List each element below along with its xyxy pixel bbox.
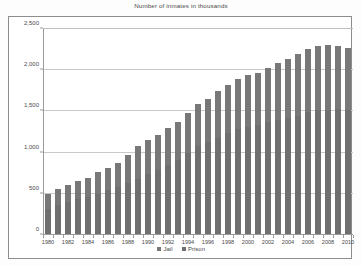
y-axis-tick-label: 500 — [29, 185, 39, 191]
x-axis-tick-label: 1982 — [62, 239, 74, 245]
bar-segment-prison — [85, 197, 91, 235]
x-tick-mark — [233, 235, 234, 238]
x-tick-mark — [43, 235, 44, 238]
bar-segment-prison — [135, 179, 141, 235]
bar-segment-jail — [305, 49, 311, 112]
x-axis-tick-label: 1988 — [122, 239, 134, 245]
bar-segment-jail — [125, 155, 131, 183]
bar-segment-prison — [75, 199, 81, 235]
bar-segment-jail — [95, 172, 101, 193]
x-axis-tick-label: 2010 — [342, 239, 354, 245]
x-tick-mark — [103, 235, 104, 238]
bar-2001 — [255, 73, 261, 235]
bar-2009 — [335, 46, 341, 235]
bar-segment-jail — [245, 75, 251, 126]
bar-segment-prison — [175, 160, 181, 235]
x-axis-tick-label: 2008 — [322, 239, 334, 245]
bar-segment-jail — [315, 46, 321, 110]
bar-1996 — [205, 99, 211, 235]
bar-segment-jail — [215, 91, 221, 138]
x-tick-mark — [333, 235, 334, 238]
chart-frame: 05001,0001,5002,0002,500 198019821984198… — [8, 16, 352, 259]
legend-swatch-icon — [157, 247, 161, 251]
bar-segment-prison — [125, 183, 131, 235]
bar-1986 — [105, 168, 111, 235]
bar-segment-prison — [195, 146, 201, 235]
bar-2006 — [305, 49, 311, 235]
legend-item-jail[interactable]: Jail — [157, 246, 173, 252]
x-tick-mark — [303, 235, 304, 238]
bar-2002 — [265, 68, 271, 235]
bar-segment-prison — [345, 110, 351, 235]
bar-segment-jail — [205, 99, 211, 142]
bar-segment-jail — [335, 46, 341, 109]
x-axis-tick-label: 1996 — [202, 239, 214, 245]
x-tick-mark — [93, 235, 94, 238]
x-axis-tick-label: 1986 — [102, 239, 114, 245]
x-tick-mark — [113, 235, 114, 238]
bar-1995 — [195, 104, 201, 235]
y-axis-line — [43, 29, 44, 235]
x-tick-mark — [203, 235, 204, 238]
bar-segment-prison — [185, 153, 191, 235]
x-axis-tick-label: 2002 — [262, 239, 274, 245]
bar-1984 — [85, 178, 91, 236]
bar-segment-jail — [55, 189, 61, 205]
bar-segment-prison — [245, 127, 251, 235]
bar-segment-prison — [45, 209, 51, 235]
x-tick-mark — [63, 235, 64, 238]
bar-1989 — [135, 146, 141, 235]
bar-1991 — [155, 135, 161, 235]
bar-segment-jail — [135, 146, 141, 179]
bar-1997 — [215, 91, 221, 235]
bar-1999 — [235, 79, 241, 235]
bar-2005 — [295, 54, 301, 235]
bars-layer — [43, 29, 353, 235]
bar-2004 — [285, 59, 291, 235]
bar-segment-prison — [315, 110, 321, 235]
bar-segment-jail — [265, 68, 271, 123]
bar-segment-prison — [115, 187, 121, 235]
legend-label: Jail — [163, 246, 172, 252]
x-tick-mark — [73, 235, 74, 238]
bar-segment-jail — [165, 128, 171, 165]
x-axis-tick-label: 1984 — [82, 239, 94, 245]
bar-segment-prison — [275, 120, 281, 235]
bar-segment-jail — [85, 178, 91, 197]
y-axis-tick-label: 2,500 — [24, 20, 39, 26]
bar-1981 — [55, 189, 61, 235]
bar-segment-jail — [255, 73, 261, 125]
y-axis-tick-label: 1,000 — [24, 144, 39, 150]
bar-2000 — [245, 75, 251, 235]
x-axis-tick-label: 2006 — [302, 239, 314, 245]
x-axis-tick-label: 2000 — [242, 239, 254, 245]
x-tick-mark — [143, 235, 144, 238]
bar-2003 — [275, 63, 281, 235]
bar-segment-prison — [165, 165, 171, 235]
x-axis-tick-label: 1994 — [182, 239, 194, 245]
bar-segment-jail — [115, 163, 121, 187]
bar-1988 — [125, 155, 131, 235]
bar-segment-jail — [325, 45, 331, 110]
x-axis-line — [43, 234, 353, 235]
bar-segment-prison — [155, 170, 161, 235]
bar-segment-jail — [295, 54, 301, 116]
x-tick-mark — [53, 235, 54, 238]
x-tick-mark — [293, 235, 294, 238]
x-tick-mark — [153, 235, 154, 238]
bar-segment-prison — [215, 138, 221, 235]
x-tick-mark — [263, 235, 264, 238]
bar-segment-jail — [285, 59, 291, 118]
bar-segment-jail — [65, 185, 71, 202]
chart-title: Number of inmates in thousands — [0, 2, 362, 9]
legend-item-prison[interactable]: Prison — [182, 246, 206, 252]
bar-segment-prison — [55, 205, 61, 235]
bar-segment-prison — [225, 133, 231, 235]
x-tick-mark — [283, 235, 284, 238]
x-tick-mark — [313, 235, 314, 238]
bar-1993 — [175, 122, 181, 235]
bar-segment-jail — [195, 104, 201, 146]
bar-1983 — [75, 181, 81, 235]
x-tick-mark — [193, 235, 194, 238]
bar-segment-jail — [145, 140, 151, 173]
